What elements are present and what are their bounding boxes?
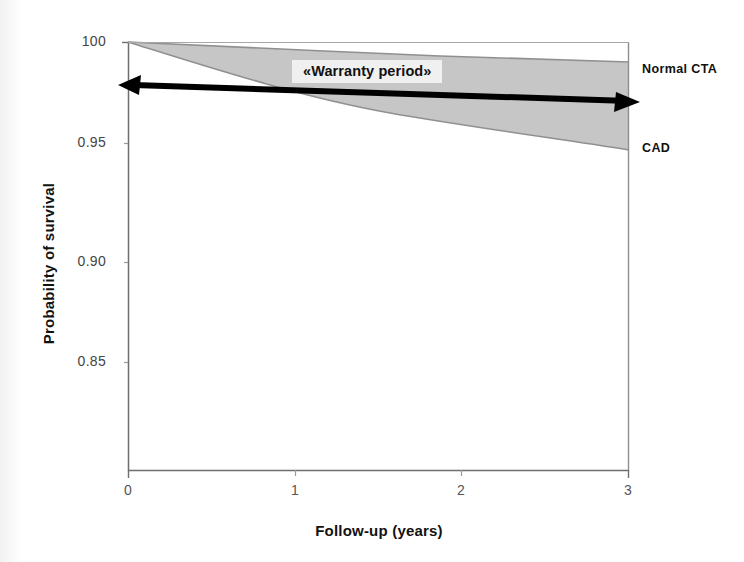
survival-curve-figure: 100 0.95 0.90 0.85 0 1 2 3 Probability o… — [0, 0, 744, 562]
x-tick-label-3: 3 — [608, 482, 648, 498]
x-axis-title: Follow-up (years) — [128, 522, 630, 539]
x-tick-label-1: 1 — [275, 482, 315, 498]
warranty-period-label: «Warranty period» — [292, 60, 442, 83]
x-tick-label-0: 0 — [108, 482, 148, 498]
y-tick-label-1.00: 100 — [46, 33, 106, 49]
chart-canvas — [0, 0, 744, 562]
x-tick-label-2: 2 — [441, 482, 481, 498]
series-label-cad: CAD — [642, 141, 670, 155]
y-axis-title: Probability of survival — [40, 134, 57, 394]
series-label-normal-cta: Normal CTA — [642, 62, 717, 76]
